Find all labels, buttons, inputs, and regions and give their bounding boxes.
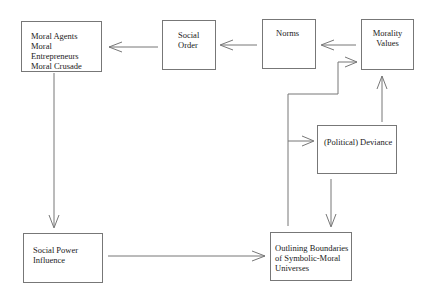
node-political-deviance: (Political) Deviance xyxy=(317,125,397,174)
arrow-social-order-to-moral-agents xyxy=(109,42,158,52)
arrow-moral-agents-to-social-power xyxy=(49,73,59,228)
node-social-order: Social Order xyxy=(162,20,216,70)
arrow-social-power-to-outlining xyxy=(108,251,265,261)
node-label: Social Order xyxy=(178,30,199,50)
node-label: Morality Values xyxy=(362,28,413,48)
node-label: Social Power Influence xyxy=(33,245,78,265)
arrow-deviance-to-morality xyxy=(377,76,387,122)
node-label: Norms xyxy=(276,28,299,38)
arrow-outlining-to-deviance xyxy=(288,136,314,146)
node-social-power: Social Power Influence xyxy=(23,233,103,283)
node-moral-agents: Moral Agents Moral Entrepreneurs Moral C… xyxy=(21,21,102,72)
arrow-morality-to-norms xyxy=(321,40,356,50)
node-norms: Norms xyxy=(262,19,316,69)
node-label: Moral Agents Moral Entrepreneurs Moral C… xyxy=(31,31,101,71)
diagram-canvas: Moral Agents Moral Entrepreneurs Moral C… xyxy=(0,0,429,298)
arrow-deviance-to-outlining xyxy=(326,179,336,227)
node-outlining-boundaries: Outlining Boundaries of Symbolic-Moral U… xyxy=(270,232,352,281)
arrow-norms-to-social-order xyxy=(220,40,257,50)
node-label: (Political) Deviance xyxy=(324,137,392,147)
node-morality-values: Morality Values xyxy=(361,19,414,70)
node-label: Outlining Boundaries of Symbolic-Moral U… xyxy=(275,243,348,273)
